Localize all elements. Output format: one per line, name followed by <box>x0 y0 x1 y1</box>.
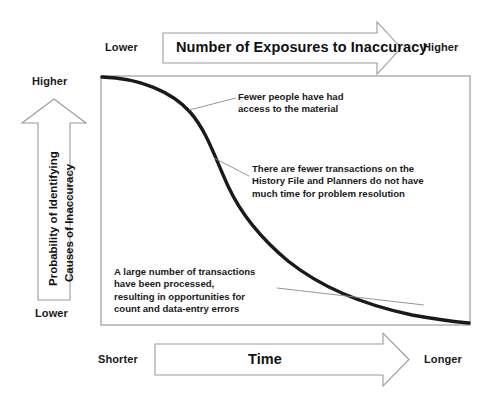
y-axis-high-label: Higher <box>32 75 67 87</box>
leader-line-fewer-people <box>189 98 236 110</box>
annotation-fewer-people: Fewer people have had access to the mate… <box>238 91 344 116</box>
top-axis-high-label: Higher <box>423 41 458 53</box>
y-axis-title-line2: Causes of Inaccuracy <box>62 164 77 282</box>
top-axis-title: Number of Exposures to Inaccuracy <box>176 39 428 55</box>
top-axis-low-label: Lower <box>105 41 138 53</box>
annotation-fewer-transactions: There are fewer transactions on the Hist… <box>252 163 424 200</box>
diagram-canvas: Lower Higher Number of Exposures to Inac… <box>0 0 488 395</box>
bottom-axis-high-label: Longer <box>424 353 462 365</box>
annotation-large-number: A large number of transactions have been… <box>114 266 255 315</box>
y-axis-title-line1: Probability of Identifying <box>46 151 61 286</box>
bottom-axis-title: Time <box>248 351 282 367</box>
bottom-axis-arrow-shape <box>155 333 409 386</box>
y-axis-low-label: Lower <box>35 307 68 319</box>
leader-line-large-number <box>277 288 424 305</box>
bottom-axis-low-label: Shorter <box>98 353 138 365</box>
